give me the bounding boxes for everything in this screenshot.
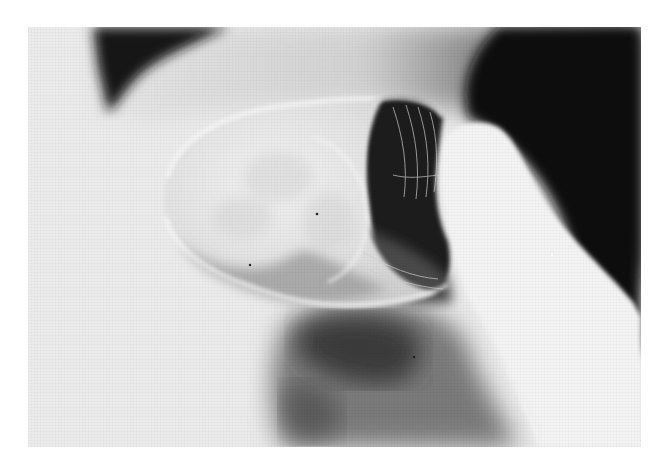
radiograph-image: [28, 27, 641, 447]
page: [0, 0, 667, 467]
radiograph-photo: [28, 27, 641, 447]
